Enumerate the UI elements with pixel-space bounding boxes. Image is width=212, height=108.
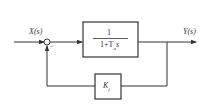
gain-subscript: f: [108, 87, 109, 92]
output-label: Y(s): [183, 28, 196, 36]
forward-denominator: 1+Tas: [100, 41, 119, 51]
denominator-text: 1+T: [100, 40, 113, 49]
feedback-sign: −: [50, 44, 54, 51]
forward-numerator: 1: [107, 29, 111, 37]
denominator-variable: s: [116, 40, 119, 49]
input-label: X(s): [29, 28, 42, 36]
block-diagram: [0, 0, 212, 108]
feedback-gain-label: Kf: [103, 82, 110, 92]
